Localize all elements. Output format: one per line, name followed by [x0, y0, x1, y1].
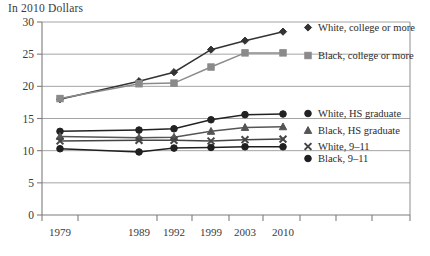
series-line — [60, 53, 283, 99]
legend-marker-icon — [305, 143, 312, 150]
data-point-marker — [280, 111, 287, 118]
data-point-marker — [280, 50, 286, 56]
data-point-marker — [207, 46, 214, 53]
y-axis-tick-label: 0 — [28, 209, 34, 221]
chart-series — [56, 28, 286, 103]
legend-marker-icon — [305, 155, 312, 162]
y-axis-tick-label: 5 — [28, 177, 34, 189]
x-axis-tick-label: 2010 — [272, 226, 295, 238]
x-axis-tick-label: 1979 — [49, 226, 72, 238]
x-axis: 197919891992199920032010 — [42, 215, 410, 238]
legend-entry: White, HS graduate — [305, 108, 402, 119]
data-point-marker — [242, 144, 249, 151]
x-axis-tick-label: 2003 — [234, 226, 257, 238]
chart-series — [57, 144, 287, 156]
data-point-marker — [171, 125, 178, 132]
y-axis: 051015202530 — [23, 16, 43, 221]
data-point-marker — [208, 116, 215, 123]
data-point-marker — [242, 111, 249, 118]
series-layer — [56, 28, 286, 155]
y-axis-tick-label: 30 — [23, 16, 35, 28]
data-point-marker — [136, 127, 143, 134]
data-point-marker — [171, 80, 177, 86]
legend-label: Black, 9–11 — [318, 153, 368, 164]
chart-series — [57, 111, 287, 135]
y-axis-tick-label: 10 — [23, 145, 35, 157]
legend-label: White, HS graduate — [318, 108, 401, 119]
legend-entry: Black, 9–11 — [305, 153, 369, 164]
x-axis-tick-label: 1999 — [200, 226, 223, 238]
chart-container: In 2010 Dollars 051015202530 19791989199… — [0, 0, 430, 256]
legend-label: White, college or more — [318, 22, 415, 33]
data-point-marker — [208, 64, 214, 70]
data-point-marker — [242, 50, 248, 56]
legend-entry: White, college or more — [304, 22, 415, 33]
legend-entry: Black, college or more — [305, 50, 414, 61]
legend-marker-icon — [305, 110, 312, 117]
data-point-marker — [170, 69, 177, 76]
legend-marker-icon — [304, 24, 311, 31]
line-chart: 051015202530 197919891992199920032010 Wh… — [0, 0, 430, 256]
data-point-marker — [136, 149, 143, 156]
data-point-marker — [171, 145, 178, 152]
y-axis-tick-label: 20 — [23, 80, 35, 92]
data-point-marker — [136, 81, 142, 87]
data-point-marker — [280, 144, 287, 151]
data-point-marker — [57, 145, 64, 152]
legend-label: White, 9–11 — [318, 141, 370, 152]
legend-label: Black, college or more — [318, 50, 414, 61]
data-point-marker — [208, 144, 215, 151]
legend-marker-icon — [305, 52, 311, 58]
legend-marker-icon — [304, 127, 311, 134]
data-point-marker — [279, 28, 286, 35]
series-line — [60, 32, 283, 100]
legend-label: Black, HS graduate — [318, 125, 400, 136]
data-point-marker — [57, 95, 63, 101]
x-axis-tick-label: 1992 — [163, 226, 185, 238]
legend-entry: Black, HS graduate — [304, 125, 400, 136]
y-axis-tick-label: 15 — [23, 113, 35, 125]
chart-legend: White, college or moreBlack, college or … — [304, 22, 415, 164]
chart-series — [57, 50, 286, 102]
y-axis-tick-label: 25 — [23, 48, 35, 60]
x-axis-tick-label: 1989 — [128, 226, 151, 238]
data-point-marker — [241, 37, 248, 44]
